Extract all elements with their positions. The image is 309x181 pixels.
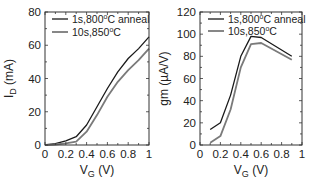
y-tick-label: 60	[183, 73, 196, 85]
legend-label-1s-800c: 1s,800oC anneal	[228, 13, 305, 25]
series-line-10s-850c	[210, 43, 292, 143]
y-tick-label: 20	[28, 106, 41, 118]
y-tick-label: 80	[28, 6, 41, 18]
x-tick-label: 0.4	[79, 148, 96, 160]
gm-vs-vg-chart: 00.20.40.60.81020406080100120VG (V)gm (µ…	[157, 6, 305, 179]
figure: 00.20.40.60.81020406080VG (V)ID (mA)1s,8…	[0, 0, 309, 181]
y-tick-label: 20	[183, 117, 196, 129]
y-axis-label: ID (mA)	[2, 59, 18, 98]
x-tick-label: 0.6	[253, 148, 269, 160]
x-tick-label: 1	[299, 148, 305, 160]
y-tick-label: 120	[177, 6, 196, 18]
x-tick-label: 0.8	[274, 148, 290, 160]
x-tick-label: 0.6	[99, 148, 115, 160]
id-vs-vg-chart: 00.20.40.60.81020406080VG (V)ID (mA)1s,8…	[2, 6, 152, 179]
y-tick-label: 100	[177, 28, 196, 40]
x-axis-label: VG (V)	[234, 163, 268, 179]
x-tick-label: 0.8	[120, 148, 136, 160]
y-tick-label: 40	[28, 73, 41, 85]
y-axis-label: gm (µA/V)	[157, 51, 171, 105]
legend: 1s,800oC anneal10s,850oC	[52, 13, 149, 38]
x-tick-label: 0	[197, 148, 203, 160]
x-tick-label: 0	[42, 148, 48, 160]
x-tick-label: 0.4	[233, 148, 250, 160]
y-tick-label: 60	[28, 39, 41, 51]
series-line-10s-850c	[45, 49, 149, 145]
legend-label-10s-850c: 10s,850oC	[72, 26, 121, 38]
y-tick-label: 40	[183, 95, 196, 107]
y-tick-label: 0	[35, 139, 41, 151]
y-tick-label: 0	[190, 139, 196, 151]
y-tick-label: 80	[183, 50, 196, 62]
x-tick-label: 0.2	[58, 148, 74, 160]
legend-label-1s-800c: 1s,800oC anneal	[72, 13, 149, 25]
series-line-1s-800c	[45, 37, 149, 145]
legend-label-10s-850c: 10s,850oC	[228, 25, 277, 37]
legend: 1s,800oC anneal10s,850oC	[208, 13, 305, 37]
x-tick-label: 0.2	[212, 148, 228, 160]
x-tick-label: 1	[146, 148, 152, 160]
series-line-1s-800c	[210, 36, 292, 129]
x-axis-label: VG (V)	[80, 163, 114, 179]
